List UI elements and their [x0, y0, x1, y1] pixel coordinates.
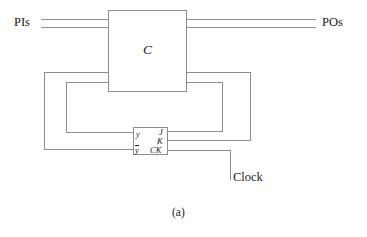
ff-output-y-label: y [136, 130, 140, 139]
figure-caption: (a) [172, 207, 185, 219]
ff-output-y-bar-label: y [135, 146, 139, 155]
ff-input-ck-label: CK [150, 146, 161, 155]
primary-inputs-label: PIs [14, 16, 30, 29]
primary-outputs-label: POs [322, 16, 343, 29]
ff-output-y-bar-text: y [135, 146, 139, 155]
clock-label: Clock [233, 171, 263, 184]
combinational-block-label: C [143, 43, 152, 57]
feedback-path-c-to-j [168, 83, 223, 132]
circuit-wiring [0, 0, 367, 237]
figure-container: PIs POs C Clock (a) y y J K CK [0, 0, 367, 237]
feedback-path-y-to-c [67, 83, 134, 133]
clock-line [168, 151, 231, 181]
feedback-path-ybar-to-c [45, 73, 134, 150]
